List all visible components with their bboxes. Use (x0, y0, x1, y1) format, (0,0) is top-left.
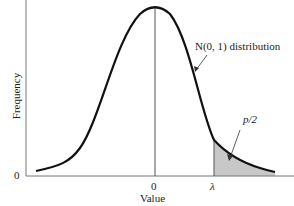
x-tick-zero: 0 (151, 180, 157, 192)
x-axis-label: Value (140, 192, 165, 204)
curve-label: N(0, 1) distribution (195, 40, 280, 52)
tail-label: p/2 (243, 113, 257, 125)
tail-label-arrow (230, 130, 240, 158)
y-tick-zero: 0 (14, 169, 20, 181)
y-axis-label: Frequency (10, 66, 22, 126)
normal-distribution-plot (0, 0, 294, 206)
x-tick-lambda: λ (210, 180, 215, 192)
